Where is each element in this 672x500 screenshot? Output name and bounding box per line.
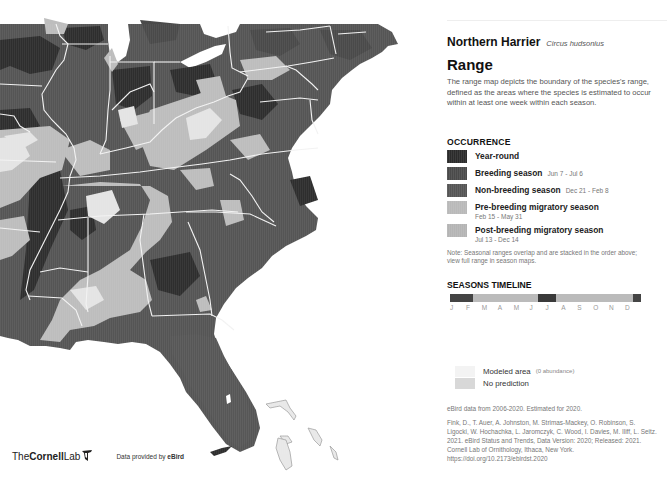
modeled-area-label: Modeled area xyxy=(483,367,531,376)
legend-dates: Jun 7 - Jul 6 xyxy=(548,170,583,178)
data-years-note: eBird data from 2006-2020. Estimated for… xyxy=(447,405,582,412)
month-label: M xyxy=(514,304,530,311)
year-round-swatch xyxy=(447,150,467,163)
timeline-title: SEASONS TIMELINE xyxy=(447,280,532,290)
legend-item-no-prediction: No prediction xyxy=(455,377,574,389)
legend-dates: Dec 21 - Feb 8 xyxy=(566,187,609,195)
non-breeding-swatch xyxy=(447,184,467,197)
occurrence-legend: Year-round Breeding season Jun 7 - Jul 6… xyxy=(447,150,662,266)
month-label: A xyxy=(498,304,514,311)
month-label: A xyxy=(561,304,577,311)
month-label: F xyxy=(466,304,482,311)
legend-dates: Jul 13 - Dec 14 xyxy=(475,236,603,244)
species-scientific-name: Circus hudsonius xyxy=(546,39,604,48)
species-header: Northern Harrier Circus hudsonius xyxy=(447,35,604,49)
breeding-swatch xyxy=(447,167,467,180)
timeline-segment-breeding xyxy=(538,294,556,302)
occurrence-title: OCCURRENCE xyxy=(447,137,511,147)
legend-item-non-breeding: Non-breeding season Dec 21 - Feb 8 xyxy=(447,184,662,201)
data-provided-by: Data provided by eBird xyxy=(116,453,184,460)
panel-divider xyxy=(447,20,667,21)
species-common-name: Northern Harrier xyxy=(447,35,540,49)
month-label: M xyxy=(482,304,498,311)
no-prediction-swatch xyxy=(455,378,475,389)
range-map-canvas[interactable] xyxy=(0,0,440,500)
range-description: The range map depicts the boundary of th… xyxy=(447,77,657,109)
no-prediction-label: No prediction xyxy=(483,379,529,388)
modeled-area-swatch xyxy=(455,366,475,377)
prediction-legend: Modeled area (0 abundance) No prediction xyxy=(455,365,574,389)
timeline-segment-non-breeding xyxy=(450,294,473,302)
legend-item-pre-breeding: Pre-breeding migratory season Feb 15 - M… xyxy=(447,201,662,224)
month-label: J xyxy=(450,304,466,311)
legend-item-breeding: Breeding season Jun 7 - Jul 6 xyxy=(447,167,662,184)
legend-item-post-breeding: Post-breeding migratory season Jul 13 - … xyxy=(447,224,662,247)
branding-bar: TheCornellLab Data provided by eBird xyxy=(12,450,184,462)
timeline-segment-post-breeding xyxy=(556,294,633,302)
pre-breeding-swatch xyxy=(447,201,467,214)
month-label: S xyxy=(577,304,593,311)
legend-item-year-round: Year-round xyxy=(447,150,662,167)
legend-label: Post-breeding migratory season xyxy=(475,224,603,236)
legend-item-modeled-area: Modeled area (0 abundance) xyxy=(455,365,574,377)
range-title: Range xyxy=(447,56,493,73)
legend-label: Non-breeding season xyxy=(475,184,561,196)
citation-text: Fink, D., T. Auer, A. Johnston, M. Strim… xyxy=(447,418,657,463)
logo-cornell: Cornell xyxy=(29,451,63,462)
logo-lab: Lab xyxy=(64,451,81,462)
legend-label: Breeding season xyxy=(475,167,543,179)
timeline-segment-non-breeding-end xyxy=(633,294,641,302)
timeline-segment-pre-breeding xyxy=(473,294,538,302)
legend-panel: Northern Harrier Circus hudsonius Range … xyxy=(447,0,667,500)
logo-the: The xyxy=(12,451,29,462)
timeline-months: J F M A M J J A S O N D xyxy=(450,304,641,311)
raster-texture xyxy=(0,24,440,454)
seasons-timeline-bar xyxy=(450,294,641,302)
legend-label: Year-round xyxy=(475,150,519,162)
ebird-link[interactable]: eBird xyxy=(167,453,184,460)
month-label: J xyxy=(545,304,561,311)
range-map[interactable] xyxy=(0,0,440,500)
post-breeding-swatch xyxy=(447,224,467,237)
legend-dates: Feb 15 - May 31 xyxy=(475,213,599,221)
month-label: D xyxy=(625,304,641,311)
provided-by-text: Data provided by xyxy=(116,453,165,460)
month-label: O xyxy=(593,304,609,311)
cornell-lab-logo[interactable]: TheCornellLab xyxy=(12,450,92,462)
month-label: J xyxy=(530,304,546,311)
cornell-bird-icon xyxy=(82,450,92,462)
legend-label: Pre-breeding migratory season xyxy=(475,201,599,213)
modeled-area-sub: (0 abundance) xyxy=(536,368,575,374)
occurrence-note: Note: Seasonal ranges overlap and are st… xyxy=(447,249,647,266)
month-label: N xyxy=(609,304,625,311)
